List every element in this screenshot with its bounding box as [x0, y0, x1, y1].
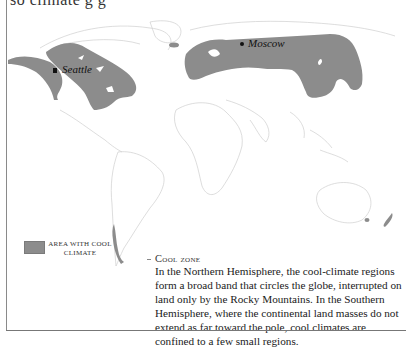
heading-fragment: so climate g g	[10, 0, 106, 9]
legend-label: Area with cool climate	[48, 240, 112, 257]
caption-body: In the Northern Hemisphere, the cool-cli…	[155, 265, 405, 348]
moscow-label: Moscow	[248, 37, 285, 49]
moscow-marker	[240, 42, 244, 46]
world-map	[0, 10, 408, 270]
seattle-label: Seattle	[62, 63, 92, 75]
seattle-marker	[53, 68, 57, 73]
map-caption: Cool zone In the Northern Hemisphere, th…	[155, 253, 405, 348]
caption-title: Cool zone	[155, 253, 405, 265]
legend-swatch	[24, 241, 45, 254]
bottom-rule	[6, 330, 406, 331]
